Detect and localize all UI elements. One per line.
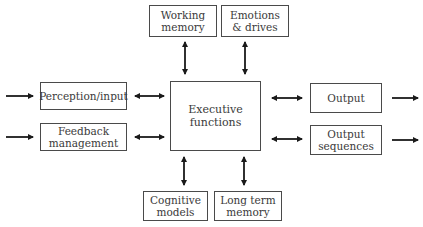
node-output-sequences: Output sequences [310, 125, 382, 155]
node-executive-functions: Executive functions [170, 81, 261, 151]
node-label: Working memory [161, 9, 206, 33]
node-label: Emotions & drives [230, 9, 280, 33]
node-output: Output [310, 83, 382, 113]
node-feedback-management: Feedback management [40, 123, 127, 151]
node-label: Perception/input [39, 90, 128, 102]
node-label: Executive functions [188, 103, 243, 129]
node-label: Feedback management [49, 125, 118, 149]
node-emotions-drives: Emotions & drives [221, 5, 289, 37]
node-long-term-memory: Long term memory [214, 191, 282, 221]
node-label: Output [327, 92, 364, 104]
node-working-memory: Working memory [149, 5, 217, 37]
node-label: Long term memory [220, 194, 276, 218]
node-label: Output sequences [318, 128, 374, 152]
node-label: Cognitive models [150, 194, 201, 218]
node-cognitive-models: Cognitive models [143, 191, 208, 221]
node-perception-input: Perception/input [40, 82, 127, 110]
